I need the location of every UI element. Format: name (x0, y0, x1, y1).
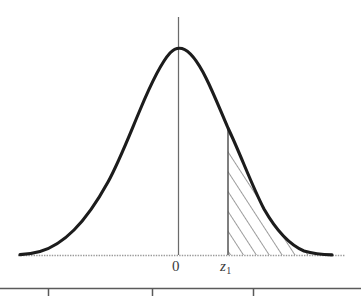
normal-curve-drawing (0, 0, 361, 296)
x-axis-label-zero: 0 (172, 258, 180, 275)
bell-curve-path (20, 48, 332, 255)
shaded-tail-region (220, 120, 350, 262)
normal-curve-figure: 0 z1 (0, 0, 361, 296)
z-subscript: 1 (226, 265, 231, 276)
x-axis-label-z1: z1 (220, 258, 231, 276)
z-symbol: z (220, 258, 226, 274)
bottom-rule (0, 288, 361, 296)
